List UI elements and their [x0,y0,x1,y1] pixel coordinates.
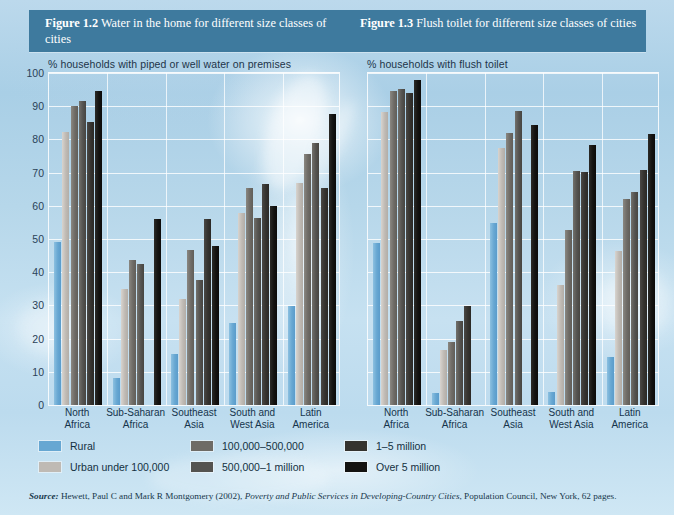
group-separator [485,73,486,405]
bar-urban-under-100-000-north-africa [381,112,388,405]
source-authors: Hewett, Paul C and Mark R Montgomery (20… [59,491,245,501]
bar-500-000-1-million-latin-america [631,192,638,405]
bar-100-000-500-000-southeast-asia [187,250,194,405]
bar-1-5-million-sub-saharan-africa [464,306,471,405]
legend-swatch-icon [345,462,367,472]
bar-100-000-500-000-latin-america [304,154,311,405]
x-axis-label-south-and-west-asia: South andWest Asia [230,407,276,431]
legend-swatch-icon [39,441,61,451]
y-axis-tick: 70 [18,167,44,179]
bar-over-5-million-north-africa [95,91,102,405]
legend-label: 100,000–500,000 [222,440,304,452]
legend-item-1-5-million[interactable]: 1–5 million [345,440,426,452]
bar-500-000-1-million-latin-america [312,143,319,405]
bar-rural-latin-america [288,306,295,405]
gridline [368,73,658,74]
bar-over-5-million-latin-america [648,134,655,405]
source-note: Source: Hewett, Paul C and Mark R Montgo… [29,491,659,501]
y-axis-tick: 30 [18,299,44,311]
bar-rural-sub-saharan-africa [113,378,120,405]
bar-urban-under-100-000-north-africa [62,132,69,405]
group-separator [602,73,603,405]
x-axis-label-sub-saharan-africa: Sub-SaharanAfrica [106,407,165,431]
bar-urban-under-100-000-south-and-west-asia [238,213,245,405]
x-axis-label-north-africa: NorthAfrica [383,407,409,431]
y-axis-tick: 0 [18,399,44,411]
bar-rural-south-and-west-asia [548,392,555,405]
bar-over-5-million-southeast-asia [212,246,219,405]
bar-1-5-million-latin-america [321,188,328,405]
gridline [49,73,339,74]
figure-1-3-title: Flush toilet for different size classes … [416,16,636,30]
bar-rural-latin-america [607,357,614,405]
group-separator [283,73,284,405]
y-axis-tick: 100 [18,67,44,79]
bar-500-000-1-million-north-africa [79,101,86,405]
bar-100-000-500-000-latin-america [623,199,630,406]
bar-100-000-500-000-north-africa [390,91,397,405]
figure-page: Figure 1.2 Water in the home for differe… [0,0,674,515]
bar-urban-under-100-000-latin-america [615,251,622,405]
bar-500-000-1-million-south-and-west-asia [254,218,261,405]
bar-urban-under-100-000-southeast-asia [498,148,505,405]
legend-item-100-000-500-000[interactable]: 100,000–500,000 [191,440,304,452]
bar-500-000-1-million-sub-saharan-africa [137,264,144,405]
bar-100-000-500-000-north-africa [71,106,78,405]
chart-left-plot-area: 0102030405060708090100 [48,72,340,406]
bar-500-000-1-million-south-and-west-asia [573,171,580,405]
y-axis-tick: 20 [18,333,44,345]
group-separator [426,73,427,405]
x-axis-label-north-africa: NorthAfrica [64,407,90,431]
legend-item-500-000-1-million[interactable]: 500,000–1 million [191,461,304,473]
legend-swatch-icon [191,462,213,472]
bar-1-5-million-north-africa [87,122,94,405]
legend-item-rural[interactable]: Rural [39,440,95,452]
y-axis-tick: 90 [18,100,44,112]
bar-urban-under-100-000-south-and-west-asia [557,285,564,405]
bar-100-000-500-000-south-and-west-asia [246,188,253,405]
legend-item-over-5-million[interactable]: Over 5 million [345,461,440,473]
legend-swatch-icon [191,441,213,451]
bar-1-5-million-north-africa [406,93,413,405]
bar-rural-southeast-asia [490,223,497,405]
bar-1-5-million-latin-america [640,170,647,405]
bar-urban-under-100-000-sub-saharan-africa [440,350,447,405]
bar-100-000-500-000-sub-saharan-africa [448,342,455,405]
y-axis-tick: 10 [18,366,44,378]
x-axis-label-latin-america: LatinAmerica [292,407,329,431]
figure-1-2-number: Figure 1.2 [45,16,98,30]
legend-label: Rural [70,440,95,452]
legend-label: Urban under 100,000 [70,461,169,473]
bar-100-000-500-000-southeast-asia [506,133,513,405]
x-axis-label-south-and-west-asia: South andWest Asia [549,407,595,431]
bar-rural-north-africa [54,242,61,405]
bar-over-5-million-latin-america [329,114,336,405]
group-separator [107,73,108,405]
chart-legend: RuralUrban under 100,000100,000–500,0005… [39,440,509,480]
chart-right-axis-title: % households with flush toilet [367,58,508,70]
legend-item-urban-under-100-000[interactable]: Urban under 100,000 [39,461,169,473]
bar-100-000-500-000-sub-saharan-africa [129,260,136,405]
group-separator [543,73,544,405]
bar-rural-south-and-west-asia [229,323,236,405]
y-axis-tick: 80 [18,133,44,145]
chart-left-axis-title: % households with piped or well water on… [48,58,291,70]
y-axis-tick: 50 [18,233,44,245]
bar-over-5-million-south-and-west-asia [270,206,277,405]
bar-500-000-1-million-north-africa [398,89,405,405]
bar-500-000-1-million-southeast-asia [196,280,203,405]
figure-1-2-heading: Figure 1.2 Water in the home for differe… [45,15,355,47]
figure-1-3-number: Figure 1.3 [360,16,413,30]
group-separator [224,73,225,405]
figure-header-band: Figure 1.2 Water in the home for differe… [29,10,646,52]
source-publisher: , Population Council, New York, 62 pages… [459,491,616,501]
bar-1-5-million-south-and-west-asia [262,184,269,405]
source-label: Source: [29,491,59,501]
y-axis-tick: 40 [18,266,44,278]
bar-over-5-million-north-africa [414,80,421,405]
chart-right-plot-area [367,72,659,406]
legend-label: 1–5 million [376,440,426,452]
source-work-title: Poverty and Public Services in Developin… [245,491,460,501]
bar-over-5-million-south-and-west-asia [589,145,596,405]
bar-500-000-1-million-southeast-asia [515,111,522,405]
